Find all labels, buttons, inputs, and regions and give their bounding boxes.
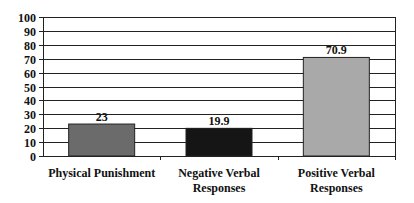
x-category-label: Negative Verbal [178, 166, 260, 180]
bar [303, 57, 369, 156]
y-tick-label: 20 [24, 122, 36, 136]
x-axis-categories: Physical PunishmentNegative VerbalRespon… [48, 156, 395, 195]
y-tick-label: 90 [24, 25, 36, 39]
x-category-label: Physical Punishment [48, 166, 155, 180]
y-tick-label: 60 [24, 67, 36, 81]
y-tick-label: 100 [18, 11, 36, 25]
bar-chart: 0102030405060708090100 2319.970.9 Physic… [0, 0, 414, 203]
x-category-label: Responses [310, 181, 363, 195]
y-tick-label: 70 [24, 53, 36, 67]
bar [69, 124, 135, 156]
x-category-label: Positive Verbal [298, 166, 376, 180]
y-tick-label: 30 [24, 108, 36, 122]
bar-value-label: 19.9 [209, 114, 230, 128]
bar [186, 128, 252, 156]
y-axis-ticks: 0102030405060708090100 [18, 11, 43, 164]
y-tick-label: 40 [24, 94, 36, 108]
y-tick-label: 10 [24, 136, 36, 150]
y-tick-label: 50 [24, 81, 36, 95]
bars: 2319.970.9 [69, 43, 370, 156]
bar-value-label: 70.9 [326, 43, 347, 57]
x-category-label: Responses [193, 181, 246, 195]
y-tick-label: 0 [30, 150, 36, 164]
bar-value-label: 23 [96, 110, 108, 124]
y-tick-label: 80 [24, 39, 36, 53]
